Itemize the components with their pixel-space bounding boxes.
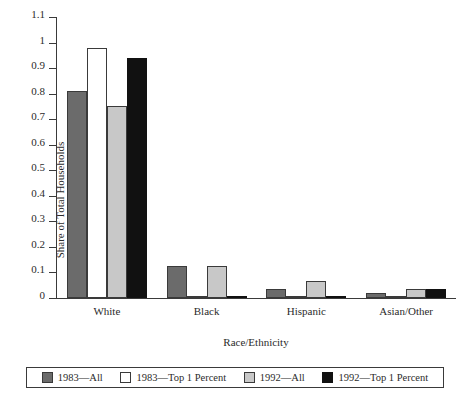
legend-swatch [42,372,53,383]
legend-label: 1992—All [260,372,305,383]
y-axis-tick: 0.2 [49,247,57,248]
bar [207,266,227,298]
y-axis-tick: 1 [49,43,57,44]
bar [306,281,326,298]
x-axis-tick-label: Black [157,305,257,317]
y-axis-tick: 0.4 [49,196,57,197]
legend-label: 1983—Top 1 Percent [136,372,226,383]
chart-figure: Share of Total Households 1.110.90.80.70… [0,0,470,400]
x-axis-tick-label: Hispanic [257,305,357,317]
y-axis-tick-label: 0.8 [31,86,45,97]
legend-label: 1983—All [58,372,103,383]
y-axis-tick-label: 0.9 [31,60,45,71]
y-axis-tick-label: 0.7 [31,111,45,122]
bar-group-bars [167,17,247,298]
y-axis-tick: 0.9 [49,68,57,69]
bar-group: Asian/Other [356,17,456,298]
y-axis-tick-label: 0.6 [31,137,45,148]
x-axis-tick-label: White [57,305,157,317]
y-axis-tick-label: 0 [40,290,46,301]
x-axis-label: Race/Ethnicity [56,336,456,348]
y-axis-tick: 0 [49,298,57,299]
y-axis-tick: 0.6 [49,145,57,146]
legend-item: 1983—Top 1 Percent [120,372,226,383]
bar [426,289,446,298]
legend-swatch [244,372,255,383]
y-axis-tick-label: 0.4 [31,188,45,199]
y-axis-tick-label: 0.5 [31,162,45,173]
legend-item: 1992—All [244,372,305,383]
bar [107,106,127,298]
legend-item: 1983—All [42,372,103,383]
y-axis-tick-label: 1 [40,35,46,46]
bar [167,266,187,298]
bar [366,293,386,298]
y-axis-tick: 0.8 [49,94,57,95]
bar-group-bars [366,17,446,298]
y-axis-tick: 0.5 [49,170,57,171]
y-axis-tick-label: 0.1 [31,264,45,275]
y-axis-tick: 0.1 [49,272,57,273]
bar-group: White [57,17,157,298]
bar [266,289,286,298]
bar-group-bars [266,17,346,298]
bar [286,296,306,298]
x-axis-tick-label: Asian/Other [356,305,456,317]
y-axis-tick-label: 0.3 [31,213,45,224]
bar [406,289,426,298]
bar [67,91,87,298]
chart-legend: 1983—All1983—Top 1 Percent1992—All1992—T… [26,367,444,388]
legend-swatch [322,372,333,383]
bar [386,296,406,298]
y-axis-tick: 0.7 [49,119,57,120]
bar [127,58,147,298]
bar-group-bars [67,17,147,298]
legend-label: 1992—Top 1 Percent [338,372,428,383]
bar [87,48,107,298]
legend-swatch [120,372,131,383]
y-axis-tick-label: 0.2 [31,239,45,250]
bar-groups: WhiteBlackHispanicAsian/Other [57,17,456,298]
legend-item: 1992—Top 1 Percent [322,372,428,383]
bar [326,296,346,298]
plot-area: 1.110.90.80.70.60.50.40.30.20.10 WhiteBl… [56,17,456,299]
bar-group: Hispanic [257,17,357,298]
y-axis-tick: 1.1 [49,17,57,18]
bar-group: Black [157,17,257,298]
y-axis-tick: 0.3 [49,221,57,222]
bar [227,296,247,298]
y-axis-tick-label: 1.1 [31,9,45,20]
bar [187,296,207,298]
